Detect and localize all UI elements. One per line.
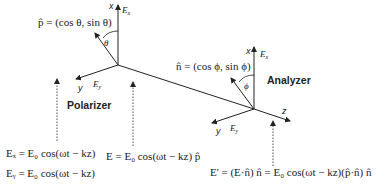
analyzer-n-vector xyxy=(231,78,254,109)
polarizer-frame: x Ex θ y Ey p̂ = (cos θ, sin θ) xyxy=(38,1,131,93)
polarizer-label: Polarizer xyxy=(67,99,111,111)
analyzer-label: Analyzer xyxy=(267,74,311,86)
polarizer-ey-label: Ey xyxy=(92,79,102,90)
e-polarized-equation: E = E₀ cos(ωt − kz) p̂ xyxy=(106,150,201,163)
polarizer-y-label: y xyxy=(77,83,83,93)
analyzer-ey-label: Ey xyxy=(229,123,239,134)
e-analyzed-equation: E' = (E·n̂) n̂ = E₀ cos(ωt − kz)(p̂·n̂) … xyxy=(210,166,372,179)
analyzer-y-label: y xyxy=(215,126,221,136)
ex-equation: Eₓ = E₀ cos(ωt − kz) xyxy=(6,147,96,160)
polarizer-x-label: x xyxy=(108,1,114,11)
analyzer-z-label: z xyxy=(281,106,287,116)
polarizer-analyzer-diagram: x Ex θ y Ey p̂ = (cos θ, sin θ) x Ex ϕ y… xyxy=(0,0,385,184)
polarizer-y-axis xyxy=(76,65,118,79)
p-hat-equation: p̂ = (cos θ, sin θ) xyxy=(38,16,112,29)
theta-label: θ xyxy=(104,38,109,48)
analyzer-x-label: x xyxy=(245,46,251,56)
theta-arc xyxy=(103,31,118,38)
phi-label: ϕ xyxy=(244,81,249,91)
analyzer-y-axis xyxy=(212,109,254,123)
n-hat-equation: n̂ = (cos ϕ, sin ϕ) xyxy=(176,60,251,73)
analyzer-ex-label: Ex xyxy=(259,49,269,60)
ey-equation: Eᵧ = E₀ cos(ωt − kz) xyxy=(6,167,95,180)
polarizer-ex-label: Ex xyxy=(121,5,131,16)
